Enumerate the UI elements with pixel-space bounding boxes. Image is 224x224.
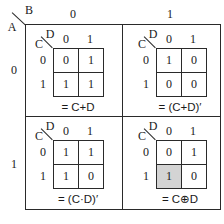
outer-row-var-label: A	[7, 21, 17, 33]
kmap-cell: 1	[156, 48, 182, 73]
kmap-col-var-label: D	[45, 28, 55, 40]
kmap-cell: 0	[181, 72, 207, 97]
outer-row-header-1: 1	[8, 158, 20, 170]
kmap-expression: = (C+D)′	[140, 101, 220, 113]
kmap-cell: 1	[78, 48, 104, 73]
kmap-cell: 1	[53, 164, 79, 189]
outer-left-border	[25, 24, 26, 210]
kmap-expression: = C+D	[38, 101, 118, 113]
outer-middle-vertical	[122, 24, 123, 210]
kmap-row-header-1: 1	[141, 78, 151, 90]
kmap-row-header-0: 0	[38, 146, 48, 158]
outer-right-border	[220, 24, 221, 210]
kmap-row-var-label: C	[137, 130, 147, 142]
kmap-col-var-label: D	[148, 120, 158, 132]
kmap-col-header-1: 1	[84, 125, 96, 137]
kmap-cell: 1	[53, 140, 79, 165]
kmap-cell: 1	[181, 140, 207, 165]
kmap-col-header-1: 1	[84, 33, 96, 45]
kmap-col-header-1: 1	[187, 125, 199, 137]
kmap-cell: 0	[78, 164, 104, 189]
kmap-row-header-1: 1	[38, 170, 48, 182]
kmap-expression: = C⊕D	[140, 193, 220, 205]
outer-col-var-label: B	[24, 4, 34, 16]
kmap-cell: 0	[156, 140, 182, 165]
kmap-row-header-1: 1	[38, 78, 48, 90]
kmap-cell: 1	[53, 72, 79, 97]
kmap-expression: = (C·D)′	[38, 193, 118, 205]
kmap-row-var-label: C	[34, 38, 44, 50]
kmap-col-header-0: 0	[163, 33, 175, 45]
kmap-row-header-0: 0	[38, 54, 48, 66]
kmap-col-var-label: D	[45, 120, 55, 132]
outer-col-header-0: 0	[66, 8, 80, 20]
kmap-row-var-label: C	[34, 130, 44, 142]
kmap-cell: 0	[156, 72, 182, 97]
kmap-cell: 1	[78, 140, 104, 165]
kmap-row-header-0: 0	[141, 54, 151, 66]
kmap-row-header-0: 0	[141, 146, 151, 158]
kmap-col-header-0: 0	[60, 125, 72, 137]
kmap-col-header-1: 1	[187, 33, 199, 45]
kmap-cell-shaded: 1	[156, 164, 182, 189]
outer-row-header-0: 0	[8, 64, 20, 76]
kmap-cell: 0	[181, 164, 207, 189]
outer-col-header-1: 1	[163, 8, 177, 20]
kmap-cell: 0	[181, 48, 207, 73]
kmap-row-header-1: 1	[141, 170, 151, 182]
kmap-row-var-label: C	[137, 38, 147, 50]
kmap-cell: 1	[78, 72, 104, 97]
kmap-cell: 0	[53, 48, 79, 73]
kmap-col-header-0: 0	[163, 125, 175, 137]
kmap-col-header-0: 0	[60, 33, 72, 45]
kmap-col-var-label: D	[148, 28, 158, 40]
